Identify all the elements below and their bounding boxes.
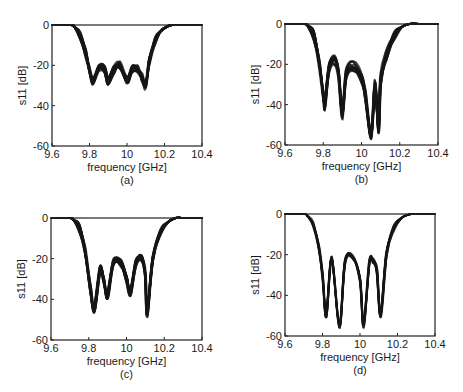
y-tick-label: 0 — [42, 212, 48, 224]
y-tick-label: -20 — [33, 59, 49, 71]
y-axis-label: s11 [dB] — [249, 255, 261, 295]
curve-ensemble — [50, 218, 202, 317]
y-tick-label: -40 — [33, 100, 49, 112]
x-tick-label: 9.6 — [43, 342, 58, 354]
x-tick-label: 9.8 — [316, 147, 331, 159]
subplot-a: 0-20-40-609.69.81010.210.4frequency [GHz… — [0, 0, 230, 195]
panel-label: (a) — [120, 174, 133, 186]
y-tick-label: -20 — [266, 249, 282, 261]
y-tick-label: 0 — [43, 19, 49, 31]
curve-ensemble — [285, 24, 439, 140]
x-tick-label: 9.8 — [81, 342, 96, 354]
axes-frame — [52, 25, 202, 146]
curve-ensemble — [285, 214, 436, 328]
subplot-d: 0-20-40-609.69.81010.210.4frequency [GHz… — [230, 195, 463, 392]
subplot-b: 0-20-40-609.69.81010.210.4frequency [GHz… — [230, 0, 463, 195]
y-axis-label: s11 [dB] — [249, 65, 261, 105]
panel-label: (d) — [353, 364, 366, 376]
subplot-c: 0-20-40-609.69.81010.210.4frequency [GHz… — [0, 195, 230, 392]
curve-ensemble — [52, 25, 203, 90]
panel-label: (c) — [120, 368, 133, 380]
y-tick-label: -40 — [266, 289, 282, 301]
panel-label: (b) — [355, 173, 368, 185]
x-tick-label: 10 — [355, 147, 367, 159]
y-tick-label: -20 — [32, 253, 48, 265]
x-axis-label: frequency [GHz] — [87, 355, 166, 367]
y-tick-label: -40 — [266, 99, 282, 111]
x-axis-label: frequency [GHz] — [320, 351, 399, 363]
x-tick-label: 10.4 — [427, 147, 448, 159]
x-tick-label: 9.6 — [277, 338, 292, 350]
x-tick-label: 10 — [121, 148, 133, 160]
chart-a: 0-20-40-609.69.81010.210.4frequency [GHz… — [0, 0, 230, 195]
chart-b: 0-20-40-609.69.81010.210.4frequency [GHz… — [230, 0, 463, 195]
x-tick-label: 9.8 — [315, 338, 330, 350]
x-tick-label: 10.2 — [389, 147, 410, 159]
x-tick-label: 10.4 — [191, 342, 212, 354]
x-tick-label: 10 — [120, 342, 132, 354]
x-tick-label: 10.2 — [387, 338, 408, 350]
y-axis-label: s11 [dB] — [16, 66, 28, 106]
y-tick-label: -40 — [32, 293, 48, 305]
x-axis-label: frequency [GHz] — [322, 160, 401, 172]
y-tick-label: -20 — [266, 58, 282, 70]
chart-d: 0-20-40-609.69.81010.210.4frequency [GHz… — [230, 195, 463, 392]
x-tick-label: 9.6 — [277, 147, 292, 159]
x-tick-label: 10.4 — [191, 148, 212, 160]
x-axis-label: frequency [GHz] — [87, 161, 166, 173]
y-tick-label: 0 — [276, 208, 282, 220]
x-tick-label: 9.8 — [82, 148, 97, 160]
y-tick-label: 0 — [276, 18, 282, 30]
x-tick-label: 10.4 — [424, 338, 445, 350]
x-tick-label: 9.6 — [44, 148, 59, 160]
chart-c: 0-20-40-609.69.81010.210.4frequency [GHz… — [0, 195, 230, 392]
x-tick-label: 10.2 — [154, 148, 175, 160]
y-axis-label: s11 [dB] — [15, 259, 27, 299]
x-tick-label: 10 — [354, 338, 366, 350]
x-tick-label: 10.2 — [154, 342, 175, 354]
